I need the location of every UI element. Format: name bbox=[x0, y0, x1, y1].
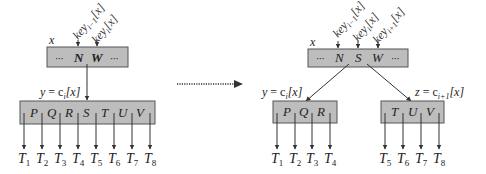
node-key: P bbox=[282, 104, 291, 119]
node-key: ··· bbox=[55, 52, 64, 64]
node-key: P bbox=[29, 105, 38, 120]
node-key: N bbox=[73, 50, 84, 65]
parent-node-name: x bbox=[48, 33, 55, 47]
left-subtree-labels: T1 T2 T3 T4 bbox=[271, 151, 337, 168]
svg-text:T8: T8 bbox=[433, 151, 446, 168]
svg-text:T7: T7 bbox=[126, 151, 139, 168]
node-key: R bbox=[316, 104, 325, 119]
svg-text:T2: T2 bbox=[289, 151, 301, 168]
parent-node-name: x bbox=[309, 35, 316, 49]
svg-text:T3: T3 bbox=[54, 151, 67, 168]
svg-text:T1: T1 bbox=[271, 151, 283, 168]
svg-text:T5: T5 bbox=[379, 151, 392, 168]
svg-text:T2: T2 bbox=[36, 151, 48, 168]
node-key: W bbox=[91, 50, 104, 65]
node-key: U bbox=[118, 105, 129, 120]
right-subtree-labels: T5 T6 T7 T8 bbox=[379, 151, 446, 168]
right-child-pointer-arrow bbox=[367, 64, 411, 101]
right-child-label: z = ci+1[x] bbox=[414, 85, 464, 101]
before-diagram: x keyi−1[x] keyi[x] ··· N W ··· y = ci[x… bbox=[18, 0, 157, 168]
node-key: ··· bbox=[316, 52, 325, 64]
svg-text:T6: T6 bbox=[397, 151, 410, 168]
node-key: T bbox=[101, 105, 109, 120]
svg-text:T8: T8 bbox=[144, 151, 157, 168]
node-key: R bbox=[64, 105, 73, 120]
node-key: ··· bbox=[110, 52, 119, 64]
after-diagram: x keyi−1[x] keyi[x] keyi+1[x] ··· N S W … bbox=[261, 0, 464, 168]
node-key: ··· bbox=[391, 52, 400, 64]
child-label: y = ci[x] bbox=[39, 85, 81, 101]
node-key: Q bbox=[47, 105, 57, 120]
node-key: U bbox=[408, 104, 419, 119]
svg-text:T1: T1 bbox=[18, 151, 30, 168]
node-key: N bbox=[334, 50, 345, 65]
svg-text:T5: T5 bbox=[90, 151, 103, 168]
transition-arrow bbox=[177, 80, 243, 88]
svg-text:T4: T4 bbox=[72, 151, 85, 168]
left-child-label: y = ci[x] bbox=[261, 85, 303, 101]
subtree-labels: T1 T2 T3 T4 T5 T6 T7 T8 bbox=[18, 151, 157, 168]
left-child-pointer-arrow bbox=[306, 64, 349, 101]
node-key: W bbox=[372, 50, 384, 65]
svg-text:T7: T7 bbox=[415, 151, 428, 168]
svg-text:T6: T6 bbox=[108, 151, 121, 168]
svg-text:T4: T4 bbox=[324, 151, 337, 168]
btree-split-diagram: x keyi−1[x] keyi[x] ··· N W ··· y = ci[x… bbox=[0, 0, 486, 174]
node-key: T bbox=[391, 104, 399, 119]
node-key: Q bbox=[299, 104, 309, 119]
svg-text:T3: T3 bbox=[306, 151, 319, 168]
node-key: S bbox=[83, 105, 90, 120]
node-key: S bbox=[355, 50, 362, 65]
